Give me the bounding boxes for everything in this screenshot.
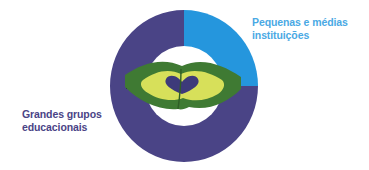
donut-chart — [110, 10, 258, 162]
donut-chart-svg — [110, 10, 258, 162]
label-pequenas-e-medias-instituicoes: Pequenas e médias instituições — [252, 16, 368, 41]
label-grandes-grupos-educacionais: Grandes grupos educacionais — [22, 108, 126, 133]
donut-hole — [145, 46, 223, 126]
donut-chart-figure: Pequenas e médias instituições Grandes g… — [0, 0, 369, 170]
